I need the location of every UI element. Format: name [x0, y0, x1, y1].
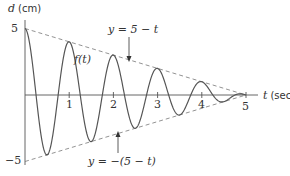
chart: d(cm) 5 −5 1 2 3 4 5 t(sec) y = 5 − t f(… — [0, 0, 290, 176]
damped-curve — [25, 29, 246, 155]
curve-label: f(t) — [73, 53, 91, 66]
svg-text:d(cm): d(cm) — [8, 2, 41, 15]
x-tick-5: 5 — [242, 100, 249, 113]
y-axis-var: d — [8, 2, 15, 15]
x-axis-unit: (sec) — [270, 90, 290, 101]
x-axis-var: t — [263, 89, 268, 102]
upper-arrow — [127, 37, 132, 62]
x-tick-2: 2 — [110, 98, 117, 111]
upper-envelope — [25, 29, 246, 96]
svg-text:t(sec): t(sec) — [263, 89, 290, 102]
y-axis-unit: (cm) — [18, 3, 41, 14]
x-tick-3: 3 — [154, 98, 161, 111]
lower-envelope-label: y = −(5 − t) — [87, 155, 156, 168]
lower-arrow — [116, 131, 121, 153]
x-tick-1: 1 — [66, 98, 73, 111]
upper-envelope-label: y = 5 − t — [107, 23, 159, 36]
y-tick-neg5: −5 — [5, 154, 21, 167]
y-tick-5: 5 — [11, 22, 18, 35]
x-tick-4: 4 — [198, 98, 205, 111]
